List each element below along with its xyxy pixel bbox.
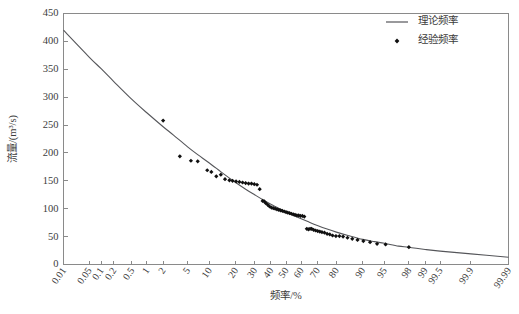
y-tick-label: 100 (43, 203, 59, 214)
y-axis-ticks (64, 14, 68, 265)
x-tick-label: 20 (226, 265, 241, 280)
frequency-curve-chart: 050100150200250300350400450 0.010.050.10… (0, 0, 519, 314)
x-tick-label: 10 (199, 265, 214, 280)
legend-diamond-swatch (395, 39, 400, 44)
x-tick-label: 95 (374, 265, 389, 280)
data-point (178, 154, 182, 158)
x-axis-ticks (64, 261, 509, 265)
x-tick-label: 99.99 (491, 265, 513, 290)
data-point (161, 118, 165, 122)
x-tick-label: 60 (291, 265, 306, 280)
x-tick-label: 70 (307, 265, 322, 280)
legend-label: 理论频率 (418, 14, 458, 26)
x-tick-label: 2 (156, 265, 168, 275)
x-tick-label: 5 (180, 265, 192, 275)
data-point (189, 159, 193, 163)
x-tick-label: 0.01 (49, 265, 68, 286)
data-point (196, 159, 200, 163)
axis-frame (64, 14, 509, 265)
data-point (407, 245, 411, 249)
theoretical-frequency-curve (64, 30, 509, 257)
y-tick-label: 50 (48, 231, 59, 242)
theory-line (64, 30, 509, 257)
x-tick-label: 80 (326, 265, 341, 280)
x-tick-label: 99.9 (456, 265, 475, 286)
data-point (223, 177, 227, 181)
y-axis-title: 流量/(m³/s) (6, 114, 19, 163)
chart-legend: 理论频率经验频率 (386, 14, 458, 45)
legend-label: 经验频率 (418, 33, 458, 45)
data-point (234, 179, 238, 183)
x-tick-label: 98 (399, 265, 414, 280)
x-tick-label: 50 (276, 265, 291, 280)
x-axis-title: 频率/% (270, 289, 302, 301)
x-tick-label: 99.5 (426, 265, 445, 286)
x-tick-label: 0.5 (120, 265, 136, 282)
y-tick-label: 400 (43, 35, 59, 46)
data-point (214, 174, 218, 178)
y-tick-label: 300 (43, 91, 59, 102)
y-tick-label: 150 (43, 175, 59, 186)
empirical-frequency-points (161, 118, 411, 249)
data-point (205, 168, 209, 172)
chart-figure: 050100150200250300350400450 0.010.050.10… (0, 0, 519, 314)
y-tick-label: 350 (43, 63, 59, 74)
x-tick-label: 0.2 (102, 265, 118, 282)
x-tick-label: 40 (261, 265, 276, 280)
data-point (341, 235, 345, 239)
y-tick-label: 450 (43, 7, 59, 18)
y-axis-tick-labels: 050100150200250300350400450 (43, 7, 59, 269)
x-tick-label: 90 (353, 265, 368, 280)
y-tick-label: 250 (43, 119, 59, 130)
y-tick-label: 200 (43, 147, 59, 158)
data-point (337, 234, 341, 238)
x-axis-tick-labels: 0.010.050.10.20.512510203040506070809095… (49, 265, 513, 290)
x-tick-label: 30 (245, 265, 260, 280)
data-point (209, 170, 213, 174)
data-point (255, 183, 259, 187)
data-point (240, 180, 244, 184)
x-tick-label: 1 (140, 265, 152, 275)
data-point (258, 187, 262, 191)
